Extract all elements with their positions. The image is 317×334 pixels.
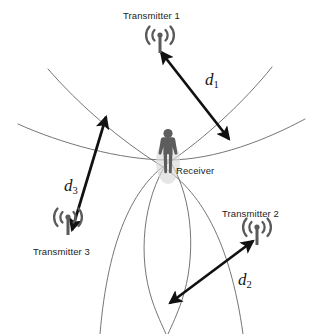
distance-label-d2-base: d	[238, 270, 247, 289]
distance-label-d1-base: d	[205, 70, 214, 89]
distance-label-d1: d1	[205, 70, 219, 90]
diagram-canvas: Transmitter 1 Transmitter 2	[0, 0, 317, 334]
distance-label-d3-sub: 3	[73, 185, 78, 196]
distance-label-d1-sub: 1	[214, 79, 219, 90]
distance-label-d2: d2	[238, 270, 252, 290]
distance-label-d3-base: d	[64, 176, 73, 195]
distance-label-d2-sub: 2	[247, 279, 252, 290]
person-icon	[0, 0, 317, 334]
receiver-label: Receiver	[176, 165, 214, 176]
distance-label-d3: d3	[64, 176, 78, 196]
